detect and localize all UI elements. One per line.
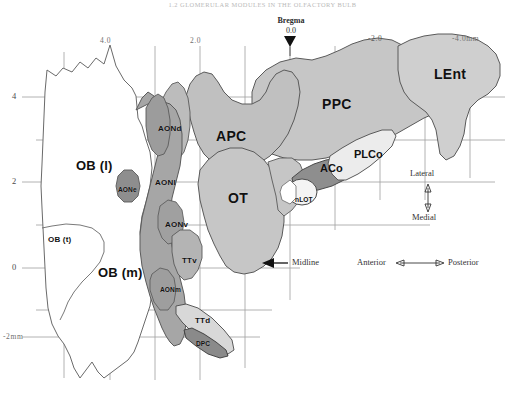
region-label-aonl: AONl	[155, 178, 176, 187]
ob-outline	[41, 45, 152, 378]
region-label-ob-t: OB (t)	[48, 235, 71, 244]
map-svg	[0, 0, 525, 394]
region-label-nlot: nLOT	[295, 196, 313, 203]
region-label-ppc: PPC	[322, 96, 352, 112]
left-tick-minus-2mm: -2mm	[3, 332, 23, 341]
lateral-label: Lateral	[410, 168, 434, 178]
left-tick-0: 0	[12, 262, 16, 272]
region-label-lent: LEnt	[434, 66, 466, 82]
top-tick-minus-2-0: -2.0	[368, 34, 382, 43]
region-label-ob-l: OB (l)	[76, 158, 113, 173]
midline-label: Midline	[292, 257, 319, 267]
bregma-value: 0.0	[263, 26, 319, 35]
region-label-aone: AONe	[118, 186, 137, 193]
region-label-ob-m: OB (m)	[98, 265, 143, 280]
posterior-label: Posterior	[448, 257, 479, 267]
olfactory-cortex-map-figure: 4.0 2.0 -2.0 -4.0mm Bregma 0.0 4 2 0 -2m…	[0, 0, 525, 394]
region-label-ttv: TTv	[182, 256, 197, 265]
region-label-aonv: AONv	[165, 220, 188, 229]
anterior-label: Anterior	[357, 257, 386, 267]
left-tick-4: 4	[12, 91, 16, 101]
region-label-dpc: DPC	[196, 340, 210, 347]
top-tick-4-0: 4.0	[100, 36, 111, 45]
region-label-aonm: AONm	[160, 286, 181, 293]
medial-label: Medial	[412, 212, 436, 222]
region-label-aco: ACo	[320, 162, 343, 174]
bregma-triangle-down-icon	[284, 36, 296, 47]
region-label-ttd: TTd	[195, 316, 210, 325]
region-label-ot: OT	[228, 190, 248, 206]
region-label-apc: APC	[216, 128, 246, 144]
region-label-aond: AONd	[158, 124, 181, 133]
top-tick-minus-4-0mm: -4.0mm	[452, 34, 479, 43]
region-label-plco: PLCo	[354, 148, 383, 160]
top-tick-2-0: 2.0	[190, 36, 201, 45]
bregma-label: Bregma	[263, 16, 319, 25]
left-tick-2: 2	[12, 176, 16, 186]
